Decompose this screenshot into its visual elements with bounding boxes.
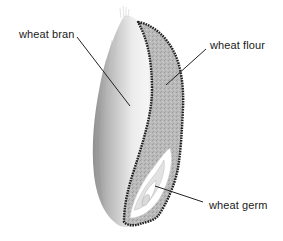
label-wheat-flour: wheat flour <box>210 39 265 51</box>
label-wheat-germ: wheat germ <box>209 199 267 211</box>
label-wheat-bran: wheat bran <box>19 28 74 40</box>
